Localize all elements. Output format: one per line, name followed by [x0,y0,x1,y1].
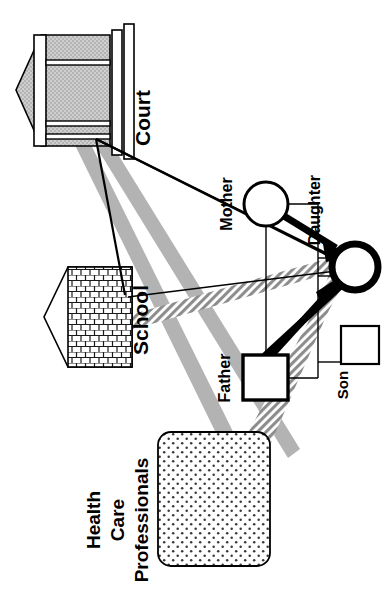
court-cornice-bar-2 [46,121,110,126]
father-square[interactable] [243,355,288,400]
son-label: Son [334,371,351,399]
mother-label: Mother [218,177,235,230]
health-care-shape [158,432,270,566]
father-label: Father [216,354,233,403]
court-system[interactable]: Court [16,24,154,159]
diagram-canvas: Court School Health Care Professionals [0,0,390,609]
health-care-label-line-1: Health [83,491,104,549]
court-cornice-bar-1 [46,60,110,65]
daughter-circle[interactable] [332,244,378,290]
health-care-label-line-2: Care [107,499,128,541]
court-label: Court [131,90,154,146]
court-cornice-bar-3 [46,134,110,139]
son-square[interactable] [341,326,379,364]
mother-circle[interactable] [244,182,288,226]
daughter-label: Daughter [306,175,323,245]
ecomap-svg: Court School Health Care Professionals [0,0,390,609]
health-care-label-line-3: Professionals [131,458,152,583]
court-facade-strip [34,35,46,146]
court-step-1 [112,30,122,155]
